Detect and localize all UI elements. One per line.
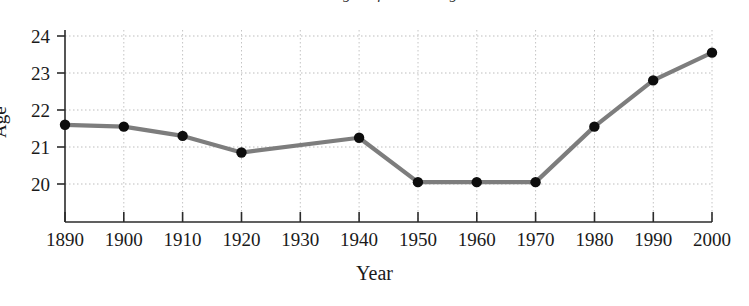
vertical-gridlines <box>124 30 712 222</box>
data-point-2000 <box>707 47 717 57</box>
y-axis-title: Age <box>0 114 48 138</box>
ytick-label-23: 23 <box>16 64 50 83</box>
data-point-1980 <box>589 121 599 131</box>
ytick-label-21: 21 <box>16 138 50 157</box>
line-chart-plot <box>0 0 749 306</box>
x-tick-marks <box>65 212 712 222</box>
data-point-1910 <box>177 131 187 141</box>
axis-spines <box>65 30 712 222</box>
y-tick-marks <box>57 36 65 184</box>
data-point-1900 <box>119 121 129 131</box>
x-axis-title: Year <box>0 262 749 285</box>
series-line <box>65 53 712 183</box>
data-point-1890 <box>60 120 70 130</box>
data-point-1940 <box>354 133 364 143</box>
data-point-1960 <box>472 177 482 187</box>
data-point-1970 <box>530 177 540 187</box>
xtick-label-2000: 2000 <box>677 230 747 249</box>
data-series-age <box>60 47 717 187</box>
data-point-1920 <box>236 147 246 157</box>
chart-figure: Median age at first marriage <box>0 0 749 306</box>
ytick-label-20: 20 <box>16 175 50 194</box>
data-point-1950 <box>413 177 423 187</box>
data-point-1990 <box>648 75 658 85</box>
ytick-label-24: 24 <box>16 27 50 46</box>
